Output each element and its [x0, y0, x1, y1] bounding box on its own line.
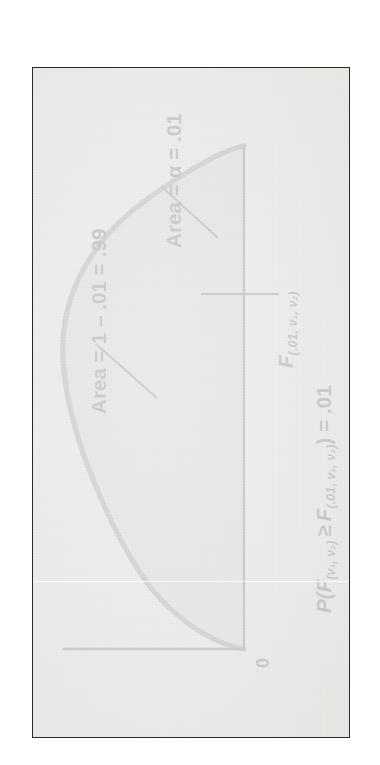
critical-value-label: F(.01, ν₁, ν₂)	[276, 291, 300, 368]
f-distribution-plot	[33, 68, 350, 738]
figure-page: 0 Area = 1 – .01 = .99 Area = α = .01 F(…	[0, 0, 380, 765]
area-right-label: Area = α = .01	[164, 113, 185, 248]
probability-suffix: ) = .01	[312, 385, 335, 444]
probability-prefix: P(	[312, 592, 335, 613]
figure-frame: 0 Area = 1 – .01 = .99 Area = α = .01 F(…	[32, 67, 350, 738]
origin-label: 0	[254, 658, 272, 668]
area-left-label: Area = 1 – .01 = .99	[89, 229, 110, 415]
critical-subscript: (.01, ν₁, ν₂)	[324, 445, 338, 509]
statistic-subscript: (ν₁, ν₂)	[324, 541, 338, 580]
critical-value-symbol: F	[274, 355, 297, 368]
probability-statement: P(F(ν₁, ν₂)≥F(.01, ν₁, ν₂)) = .01	[314, 385, 338, 613]
critical-value-subscript: (.01, ν₁, ν₂)	[286, 291, 300, 355]
relation-symbol: ≥	[312, 521, 335, 540]
critical-symbol: F	[312, 509, 335, 522]
statistic-symbol: F	[312, 580, 335, 593]
